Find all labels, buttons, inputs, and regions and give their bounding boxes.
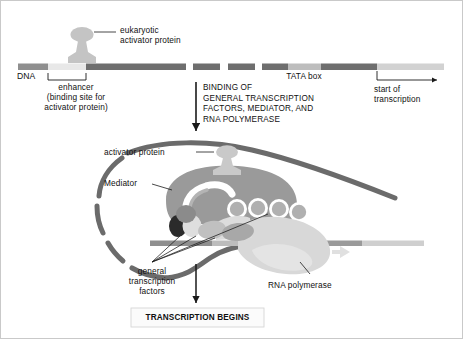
enhancer-bracket bbox=[48, 73, 86, 80]
dna-label: DNA bbox=[17, 71, 35, 81]
mediator-leader-line bbox=[152, 184, 172, 190]
rna-polymerase-label: RNA polymerase bbox=[268, 280, 332, 290]
transcription-start-label: start of transcription bbox=[374, 84, 421, 104]
polymerase-direction-arrow bbox=[332, 246, 350, 258]
gtf-label: general transcription factors bbox=[98, 266, 206, 297]
activator-protein-label-bottom: activator protein bbox=[104, 147, 165, 157]
process-arrow-label: BINDING OF GENERAL TRANSCRIPTION FACTORS… bbox=[203, 83, 314, 125]
transcription-start-arrow bbox=[377, 71, 437, 80]
tata-box-label: TATA box bbox=[266, 71, 342, 81]
figure-canvas: eukaryotic activator protein DNA enhance… bbox=[0, 0, 464, 340]
activator-protein-bottom bbox=[213, 145, 241, 175]
mediator-label: Mediator bbox=[104, 178, 137, 188]
enhancer-label: enhancer (binding site for activator pro… bbox=[0, 82, 152, 113]
result-box-label: TRANSCRIPTION BEGINS bbox=[131, 313, 264, 324]
top-dna-strand bbox=[18, 64, 444, 71]
activator-protein-top bbox=[68, 27, 96, 63]
diagram-artwork bbox=[0, 0, 464, 340]
activator-protein-label-top: eukaryotic activator protein bbox=[120, 25, 181, 45]
